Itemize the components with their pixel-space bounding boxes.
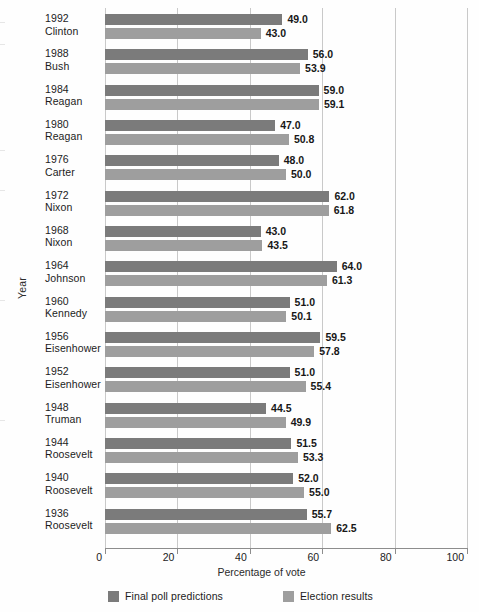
legend-swatch xyxy=(283,591,294,602)
bar-value-label: 48.0 xyxy=(284,155,304,166)
bar-pred[interactable] xyxy=(105,367,290,378)
x-tickmark-80 xyxy=(395,548,396,554)
page-edge-artifact xyxy=(0,190,5,191)
page-edge-artifact xyxy=(0,150,5,151)
x-axis-line xyxy=(105,548,468,549)
category-label: 1948Truman xyxy=(45,401,103,426)
bar-group: 62.061.8 xyxy=(105,191,467,217)
bar-result[interactable] xyxy=(105,99,319,110)
bar-value-label: 43.0 xyxy=(266,28,286,39)
bar-group: 48.050.0 xyxy=(105,155,467,181)
bar-pred[interactable] xyxy=(105,14,282,25)
category-label: 1936Roosevelt xyxy=(45,507,103,532)
bar-value-label: 44.5 xyxy=(271,403,291,414)
bar-value-label: 51.5 xyxy=(296,438,316,449)
x-axis-title: Percentage of vote xyxy=(0,566,479,578)
bar-result[interactable] xyxy=(105,487,304,498)
category-label: 1964Johnson xyxy=(45,259,103,284)
bar-value-label: 47.0 xyxy=(280,120,300,131)
category-name: Carter xyxy=(45,166,103,179)
bar-group: 59.557.8 xyxy=(105,332,467,358)
category-label: 1940Roosevelt xyxy=(45,471,103,496)
category-year: 1972 xyxy=(45,189,103,202)
bar-group: 51.553.3 xyxy=(105,438,467,464)
bar-value-label: 50.1 xyxy=(291,311,311,322)
bar-result[interactable] xyxy=(105,63,300,74)
bar-pred[interactable] xyxy=(105,403,266,414)
category-name: Roosevelt xyxy=(45,519,103,532)
bar-pred[interactable] xyxy=(105,226,261,237)
category-label: 1992Clinton xyxy=(45,12,103,37)
bar-result[interactable] xyxy=(105,169,286,180)
category-name: Reagan xyxy=(45,130,103,143)
bar-pred[interactable] xyxy=(105,49,308,60)
bar-value-label: 53.9 xyxy=(305,63,325,74)
bar-group: 43.043.5 xyxy=(105,226,467,252)
bar-result[interactable] xyxy=(105,311,286,322)
bar-pred[interactable] xyxy=(105,85,319,96)
category-name: Nixon xyxy=(45,201,103,214)
x-tick-label: 0 xyxy=(68,551,102,563)
category-name: Bush xyxy=(45,60,103,73)
bar-pred[interactable] xyxy=(105,297,290,308)
bar-result[interactable] xyxy=(105,417,286,428)
bar-value-label: 56.0 xyxy=(313,49,333,60)
category-year: 1992 xyxy=(45,12,103,25)
bar-group: 64.061.3 xyxy=(105,261,467,287)
bar-group: 55.762.5 xyxy=(105,509,467,535)
category-year: 1968 xyxy=(45,224,103,237)
bar-result[interactable] xyxy=(105,381,306,392)
page-edge-artifact xyxy=(0,420,5,421)
bar-value-label: 43.0 xyxy=(266,226,286,237)
x-tickmark-0 xyxy=(105,548,106,554)
bar-value-label: 49.9 xyxy=(291,417,311,428)
bar-pred[interactable] xyxy=(105,473,293,484)
category-name: Nixon xyxy=(45,236,103,249)
x-tick-label: 100 xyxy=(430,551,464,563)
bar-pred[interactable] xyxy=(105,332,320,343)
bar-pred[interactable] xyxy=(105,155,279,166)
category-label: 1952Eisenhower xyxy=(45,365,103,390)
chart-legend: Final poll predictionsElection results xyxy=(105,589,479,605)
x-tick-label: 80 xyxy=(358,551,392,563)
bar-pred[interactable] xyxy=(105,509,307,520)
bar-result[interactable] xyxy=(105,205,329,216)
legend-label: Final poll predictions xyxy=(125,590,223,602)
legend-item[interactable]: Election results xyxy=(283,589,373,603)
category-label: 1980Reagan xyxy=(45,118,103,143)
bar-result[interactable] xyxy=(105,240,262,251)
bar-pred[interactable] xyxy=(105,191,329,202)
bar-value-label: 55.0 xyxy=(309,487,329,498)
page-edge-artifact xyxy=(0,44,5,45)
category-year: 1952 xyxy=(45,365,103,378)
bar-value-label: 51.0 xyxy=(295,367,315,378)
bar-pred[interactable] xyxy=(105,261,337,272)
bar-value-label: 52.0 xyxy=(298,473,318,484)
bar-pred[interactable] xyxy=(105,120,275,131)
category-name: Roosevelt xyxy=(45,448,103,461)
bar-value-label: 51.0 xyxy=(295,297,315,308)
bar-result[interactable] xyxy=(105,275,327,286)
legend-swatch xyxy=(108,591,119,602)
category-label: 1988Bush xyxy=(45,47,103,72)
category-year: 1976 xyxy=(45,153,103,166)
bar-value-label: 62.0 xyxy=(334,191,354,202)
bar-result[interactable] xyxy=(105,346,314,357)
bar-group: 52.055.0 xyxy=(105,473,467,499)
bar-pred[interactable] xyxy=(105,438,291,449)
bar-value-label: 61.3 xyxy=(332,275,352,286)
category-label: 1972Nixon xyxy=(45,189,103,214)
bar-value-label: 64.0 xyxy=(342,261,362,272)
category-label: 1956Eisenhower xyxy=(45,330,103,355)
bar-value-label: 55.4 xyxy=(311,381,331,392)
bar-result[interactable] xyxy=(105,134,289,145)
page-edge-artifact xyxy=(0,300,5,301)
bar-result[interactable] xyxy=(105,452,298,463)
y-axis-title-text: Year xyxy=(2,268,42,308)
legend-item[interactable]: Final poll predictions xyxy=(108,589,223,603)
bar-result[interactable] xyxy=(105,28,261,39)
bar-value-label: 62.5 xyxy=(336,523,356,534)
bar-result[interactable] xyxy=(105,523,331,534)
bar-value-label: 49.0 xyxy=(287,14,307,25)
category-name: Johnson xyxy=(45,272,103,285)
